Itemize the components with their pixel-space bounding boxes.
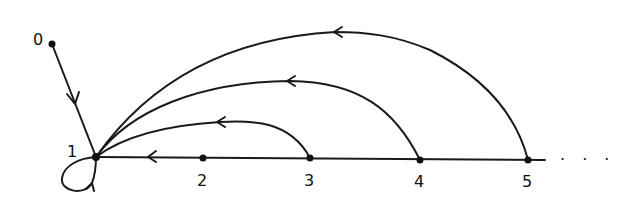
edge-4-to-1 <box>96 81 420 160</box>
label-node-1: 1 <box>67 142 77 161</box>
edge-baseline <box>96 157 545 160</box>
label-node-0: 0 <box>33 30 43 49</box>
label-node-3: 3 <box>304 171 314 190</box>
edge-1-self-loop <box>62 157 96 191</box>
node-1 <box>92 153 100 161</box>
graph-canvas: 0 1 2 3 4 5 · · · <box>0 0 635 203</box>
node-0 <box>49 41 56 48</box>
node-3 <box>307 155 314 162</box>
edge-0-to-1 <box>52 44 96 157</box>
node-4 <box>417 157 424 164</box>
edge-3-to-1 <box>96 121 310 158</box>
continuation-ellipsis: · · · <box>560 150 615 169</box>
edge-5-to-1 <box>96 32 528 160</box>
label-node-4: 4 <box>414 172 424 191</box>
node-5 <box>525 157 532 164</box>
label-node-5: 5 <box>522 172 532 191</box>
node-2 <box>200 155 207 162</box>
label-node-2: 2 <box>197 171 207 190</box>
